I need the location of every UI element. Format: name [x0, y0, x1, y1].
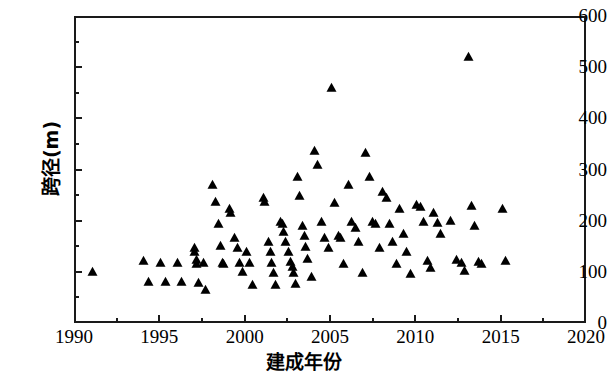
y-axis-tick-label: 300 — [543, 160, 607, 179]
data-point-marker — [144, 276, 154, 285]
y-axis-tick-label: 500 — [543, 57, 607, 76]
y-axis-tick — [74, 220, 82, 222]
data-point-marker — [234, 257, 244, 266]
data-point-marker — [436, 229, 446, 238]
data-point-marker — [292, 171, 302, 180]
x-axis-tick-label: 2015 — [456, 327, 546, 346]
data-point-marker — [402, 247, 412, 256]
data-point-marker — [260, 197, 270, 206]
data-point-marker — [306, 272, 316, 281]
data-point-marker — [161, 276, 171, 285]
data-point-marker — [323, 243, 333, 252]
x-axis-tick-label: 2010 — [370, 327, 460, 346]
data-point-marker — [299, 231, 309, 240]
y-axis-tick-label: 400 — [543, 108, 607, 127]
data-point-marker — [374, 243, 384, 252]
data-point-marker — [327, 82, 337, 91]
data-point-marker — [463, 52, 473, 61]
data-point-marker — [156, 257, 166, 266]
data-point-marker — [338, 258, 348, 267]
x-axis-tick-label: 2000 — [200, 327, 290, 346]
data-point-marker — [268, 268, 278, 277]
data-point-marker — [303, 253, 313, 262]
data-point-marker — [381, 193, 391, 202]
data-point-marker — [391, 258, 401, 267]
data-point-marker — [388, 237, 398, 246]
data-point-marker — [270, 280, 280, 289]
data-point-marker — [385, 218, 395, 227]
y-axis-tick — [74, 169, 82, 171]
data-point-marker — [214, 218, 224, 227]
x-axis-minor-tick — [286, 318, 288, 323]
data-point-marker — [335, 233, 345, 242]
data-points-layer — [76, 18, 584, 321]
data-point-marker — [241, 247, 251, 256]
data-point-marker — [289, 268, 299, 277]
x-axis-tick-label: 1990 — [29, 327, 119, 346]
data-point-marker — [238, 267, 248, 276]
data-point-marker — [419, 216, 429, 225]
x-axis-tick-label: 2020 — [541, 327, 607, 346]
data-point-marker — [309, 146, 319, 155]
x-axis-tick — [329, 315, 331, 323]
y-axis-tick-label: 600 — [543, 6, 607, 25]
data-point-marker — [429, 208, 439, 217]
plot-area — [74, 16, 586, 323]
y-axis-tick-label: 100 — [543, 262, 607, 281]
data-point-marker — [294, 191, 304, 200]
data-point-marker — [279, 227, 289, 236]
y-axis-tick — [74, 271, 82, 273]
data-point-marker — [200, 285, 210, 294]
y-axis-minor-tick — [74, 92, 79, 94]
data-point-marker — [199, 257, 209, 266]
data-point-marker — [267, 257, 277, 266]
data-point-marker — [350, 222, 360, 231]
data-point-marker — [501, 255, 511, 264]
data-point-marker — [139, 255, 149, 264]
data-point-marker — [425, 262, 435, 271]
scatter-chart-figure: 跨径(m) 建成年份 01002003004005006001990199520… — [0, 0, 607, 381]
data-point-marker — [229, 233, 239, 242]
x-axis-tick-label: 2005 — [285, 327, 375, 346]
data-point-marker — [265, 247, 275, 256]
data-point-marker — [226, 208, 236, 217]
data-point-marker — [405, 269, 415, 278]
data-point-marker — [446, 215, 456, 224]
x-axis-minor-tick — [457, 318, 459, 323]
data-point-marker — [344, 180, 354, 189]
data-point-marker — [432, 217, 442, 226]
y-axis-tick-label: 200 — [543, 211, 607, 230]
x-axis-minor-tick — [201, 318, 203, 323]
x-axis-tick — [414, 315, 416, 323]
data-point-marker — [297, 220, 307, 229]
data-point-marker — [415, 202, 425, 211]
y-axis-minor-tick — [74, 41, 79, 43]
x-axis-tick — [500, 315, 502, 323]
x-axis-tick — [244, 315, 246, 323]
data-point-marker — [460, 265, 470, 274]
data-point-marker — [398, 229, 408, 238]
data-point-marker — [280, 237, 290, 246]
data-point-marker — [395, 204, 405, 213]
y-axis-minor-tick — [74, 194, 79, 196]
x-axis-tick-label: 1995 — [114, 327, 204, 346]
data-point-marker — [263, 237, 273, 246]
y-axis-minor-tick — [74, 296, 79, 298]
data-point-marker — [497, 204, 507, 213]
data-point-marker — [330, 198, 340, 207]
data-point-marker — [291, 279, 301, 288]
x-axis-minor-tick — [372, 318, 374, 323]
data-point-marker — [207, 180, 217, 189]
data-point-marker — [88, 267, 98, 276]
data-point-marker — [354, 237, 364, 246]
data-point-marker — [320, 233, 330, 242]
x-axis-tick — [158, 315, 160, 323]
data-point-marker — [210, 197, 220, 206]
data-point-marker — [176, 276, 186, 285]
data-point-marker — [245, 257, 255, 266]
data-point-marker — [466, 201, 476, 210]
data-point-marker — [371, 218, 381, 227]
data-point-marker — [301, 242, 311, 251]
data-point-marker — [364, 171, 374, 180]
x-axis-minor-tick — [116, 318, 118, 323]
